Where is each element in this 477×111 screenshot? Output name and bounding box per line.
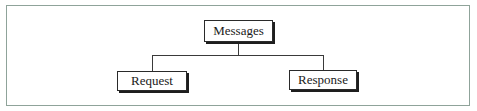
- node-request-label: Request: [131, 73, 173, 89]
- node-response: Response: [289, 70, 357, 90]
- connector-horizontal-bar: [152, 55, 324, 56]
- node-messages: Messages: [204, 20, 273, 42]
- connector-to-request: [152, 55, 153, 71]
- node-messages-label: Messages: [213, 23, 264, 39]
- connector-root-stem: [238, 42, 239, 56]
- node-response-label: Response: [298, 72, 348, 88]
- connector-to-response: [323, 55, 324, 70]
- node-request: Request: [117, 71, 187, 91]
